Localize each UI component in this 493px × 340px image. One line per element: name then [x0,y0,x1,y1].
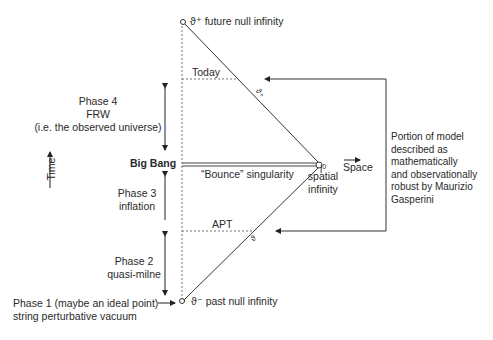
phase2-title: Phase 2 [104,255,164,268]
bracket-note: Portion of model described as mathematic… [391,131,477,206]
phase4-title: Phase 4 [28,95,168,108]
spatial-infinity-line-1: spatial [306,170,340,183]
spatial-infinity-line-2: infinity [306,183,340,196]
bracket-note-line-3: mathematically [391,156,477,169]
phase2-label: Phase 2 quasi-milne [104,255,164,281]
phase1-title: Phase 1 (maybe an ideal point) [13,297,158,310]
bracket-note-line-6: Gasperini [391,194,477,207]
today-label: Today [192,66,220,79]
bounce-singularity-label: “Bounce” singularity [201,168,294,181]
phase1-name: string perturbative vacuum [13,310,158,323]
phase3-label: Phase 3 inflation [112,187,162,213]
robust-portion-bracket [266,79,386,231]
bracket-note-line-4: and observationally [391,169,477,182]
future-null-edge [184,23,318,162]
phase3-title: Phase 3 [112,187,162,200]
phase4-label: Phase 4 FRW (i.e. the observed universe) [28,95,168,134]
future-null-infinity-label: ϑ⁺ future null infinity [190,15,283,28]
time-label: Time [45,149,57,189]
phase4-name: FRW [28,108,168,121]
space-label: Space [343,161,373,174]
spatial-infinity-label: spatial infinity [306,170,340,196]
phase1-label: Phase 1 (maybe an ideal point) string pe… [13,297,158,323]
bracket-note-line-5: robust by Maurizio [391,181,477,194]
i-superscript: 0 [322,163,326,170]
bracket-note-line-2: described as [391,144,477,157]
bracket-arrowhead-top [264,76,270,82]
future-null-infinity-point [181,20,186,25]
phase4-note: (i.e. the observed universe) [28,121,168,134]
bracket-note-line-1: Portion of model [391,131,477,144]
apt-label: APT [212,218,232,231]
phase3-name: inflation [112,200,162,213]
past-null-infinity-label: ϑ⁻ past null infinity [191,295,277,308]
phase2-name: quasi-milne [104,268,164,281]
bracket-arrowhead-bottom [275,228,281,234]
past-null-infinity-point [180,299,185,304]
big-bang-label: Big Bang [130,157,176,170]
